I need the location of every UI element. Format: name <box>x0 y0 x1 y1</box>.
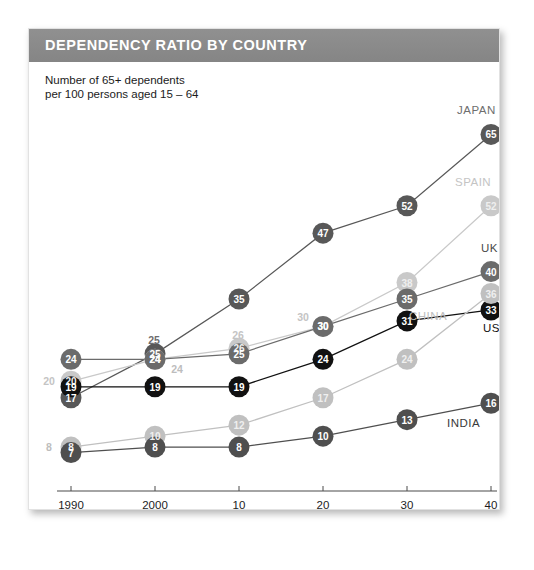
data-point-japan-10 <box>229 289 250 310</box>
x-axis-label-30: 30 <box>401 499 414 510</box>
x-axis-label-1990: 1990 <box>58 499 84 510</box>
ghost-label-china-2000: 24 <box>171 363 183 375</box>
x-axis-label-20: 20 <box>317 499 330 510</box>
data-point-us-1990 <box>61 376 82 397</box>
ghost-label-china-1990: 8 <box>46 441 52 453</box>
data-point-uk-2000 <box>145 349 166 370</box>
data-point-uk-10 <box>229 343 250 364</box>
x-axis-label-40: 40 <box>485 499 498 510</box>
series-line-spain <box>71 206 491 382</box>
ghost-label-spain-2020: 30 <box>297 311 309 323</box>
chart-plot-area: 1725354752652024263038522424253035401919… <box>29 29 499 509</box>
data-point-china-10 <box>229 415 250 436</box>
data-point-china-40 <box>481 283 500 304</box>
data-point-india-10 <box>229 437 250 458</box>
data-point-us-10 <box>229 376 250 397</box>
data-point-china-30 <box>397 349 418 370</box>
data-point-india-20 <box>313 426 334 447</box>
x-axis-label-10: 10 <box>233 499 246 510</box>
data-point-us-2000 <box>145 376 166 397</box>
data-point-uk-20 <box>313 316 334 337</box>
x-axis-label-2000: 2000 <box>142 499 168 510</box>
data-point-japan-20 <box>313 223 334 244</box>
data-point-japan-30 <box>397 195 418 216</box>
data-point-china-20 <box>313 387 334 408</box>
data-point-india-1990 <box>61 442 82 463</box>
ghost-label-japan-2000: 25 <box>148 334 160 346</box>
ghost-label-spain-2010: 26 <box>232 329 244 341</box>
series-label-india: INDIA <box>447 417 480 429</box>
data-point-uk-40 <box>481 261 500 282</box>
data-point-uk-30 <box>397 289 418 310</box>
series-line-india <box>71 403 491 452</box>
data-point-us-20 <box>313 349 334 370</box>
series-label-japan: JAPAN <box>457 104 496 116</box>
data-point-india-2000 <box>145 437 166 458</box>
series-label-spain: SPAIN <box>455 176 491 188</box>
data-point-uk-1990 <box>61 349 82 370</box>
chart-card: DEPENDENCY RATIO BY COUNTRY Number of 65… <box>28 28 500 510</box>
chart-svg <box>29 29 499 509</box>
series-line-japan <box>71 134 491 397</box>
series-label-china: CHINA <box>409 310 447 322</box>
series-label-uk: UK <box>481 242 498 254</box>
ghost-label-spain-1990: 20 <box>43 375 55 387</box>
series-label-us: US <box>483 322 500 334</box>
data-point-india-30 <box>397 409 418 430</box>
data-point-india-40 <box>481 393 500 414</box>
page-root: DEPENDENCY RATIO BY COUNTRY Number of 65… <box>0 0 534 570</box>
